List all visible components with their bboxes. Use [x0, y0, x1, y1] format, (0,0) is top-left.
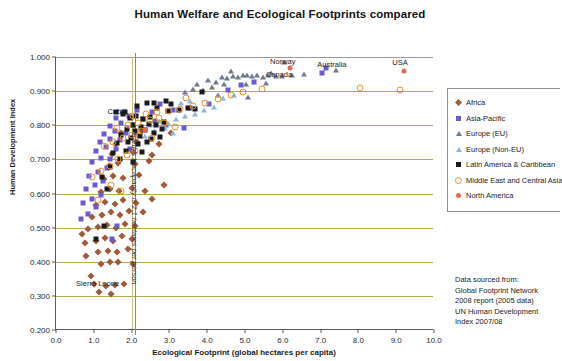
y-tick-mark	[52, 227, 56, 228]
data-point	[252, 79, 257, 84]
legend-item-label: Europe (Non-EU)	[466, 145, 524, 154]
y-gridline	[56, 296, 433, 297]
source-note: Data sourced from:Global Footprint Netwo…	[455, 275, 560, 328]
chart-title: Human Welfare and Ecological Footprints …	[0, 8, 560, 20]
y-tick-label: 0.700	[30, 155, 50, 164]
chart-annotation: USA	[392, 58, 407, 67]
data-point	[401, 69, 406, 74]
data-point	[81, 201, 86, 206]
data-point	[149, 195, 156, 202]
data-point	[116, 212, 123, 219]
source-note-line: 2008 report (2005 data)	[455, 296, 560, 307]
legend-marker-icon	[454, 177, 463, 184]
data-point	[227, 92, 234, 99]
y-tick-mark	[52, 193, 56, 194]
data-point	[183, 94, 190, 101]
data-point	[165, 107, 172, 114]
data-point	[202, 99, 209, 106]
y-tick-label: 0.500	[30, 223, 50, 232]
y-tick-mark	[52, 261, 56, 262]
data-point	[120, 135, 127, 142]
data-point	[97, 167, 104, 174]
y-axis-title: Human Development Index	[8, 99, 17, 195]
legend-item-middle-east-and-central-asia[interactable]: Middle East and Central Asia	[454, 173, 560, 189]
y-tick-label: 0.800	[30, 121, 50, 130]
x-tick-mark	[131, 329, 132, 333]
data-point	[114, 116, 119, 121]
y-tick-label: 0.400	[30, 257, 50, 266]
source-note-line: Data sourced from:	[455, 275, 560, 286]
data-point	[110, 173, 117, 180]
data-point	[160, 181, 167, 188]
data-point	[159, 127, 164, 132]
chart-annotation: Canada	[266, 70, 292, 79]
data-point	[221, 82, 227, 87]
legend-item-europe-eu[interactable]: Europe (EU)	[454, 126, 560, 142]
data-point	[93, 205, 98, 210]
data-point	[145, 158, 152, 165]
legend-item-latin-america-caribbean[interactable]: Latin America & Caribbean	[454, 157, 560, 173]
legend-item-asia-pacific[interactable]: Asia-Pacific	[454, 111, 560, 127]
source-note-line: Index 2007/08	[455, 317, 560, 328]
data-point	[99, 211, 106, 218]
data-point	[114, 124, 121, 131]
data-point	[102, 234, 109, 241]
data-point	[263, 80, 269, 85]
y-gridline	[56, 125, 433, 126]
x-tick-mark	[282, 329, 283, 333]
source-note-line: Global Footprint Network	[455, 286, 560, 297]
data-point	[120, 281, 127, 288]
y-tick-mark	[52, 57, 56, 58]
x-tick-mark	[358, 329, 359, 333]
data-point	[92, 183, 97, 188]
data-point	[101, 142, 108, 149]
data-point	[211, 104, 217, 109]
data-point	[119, 175, 126, 182]
data-point	[170, 130, 176, 135]
legend-item-label: Asia-Pacific	[466, 114, 505, 123]
y-tick-mark	[52, 159, 56, 160]
data-point	[109, 236, 114, 241]
data-point	[146, 117, 153, 124]
legend-item-africa[interactable]: Africa	[454, 95, 560, 111]
x-tick-label: 8.0	[353, 336, 364, 345]
data-point	[110, 138, 117, 145]
data-point	[173, 117, 179, 122]
data-point	[111, 150, 116, 155]
data-point	[86, 211, 91, 216]
legend-item-europe-non-eu[interactable]: Europe (Non-EU)	[454, 142, 560, 158]
data-point	[301, 72, 307, 77]
y-tick-label: 0.200	[30, 326, 50, 335]
y-tick-mark	[52, 295, 56, 296]
data-point	[140, 149, 145, 154]
data-point	[118, 187, 125, 194]
data-point	[94, 248, 101, 255]
legend-item-label: Africa	[466, 98, 485, 107]
data-point	[240, 89, 247, 96]
chart-annotation: Cuba	[108, 107, 126, 116]
data-point	[199, 89, 204, 94]
data-point	[172, 123, 179, 130]
x-tick-mark	[207, 329, 208, 333]
x-tick-label: 7.0	[315, 336, 326, 345]
x-tick-label: 10.0	[426, 336, 442, 345]
data-point	[396, 87, 403, 94]
data-point	[205, 78, 211, 83]
data-point	[84, 187, 89, 192]
x-tick-mark	[93, 329, 94, 333]
data-point	[245, 94, 251, 99]
legend-marker-icon	[454, 147, 463, 152]
y-tick-label: 0.600	[30, 189, 50, 198]
data-point	[130, 112, 137, 119]
legend-item-north-america[interactable]: North America	[454, 188, 560, 204]
x-tick-mark	[169, 329, 170, 333]
data-point	[144, 101, 149, 106]
data-point	[154, 123, 159, 128]
data-point	[139, 209, 146, 216]
data-point	[93, 148, 98, 153]
data-point	[135, 119, 142, 126]
x-tick-mark	[396, 329, 397, 333]
legend-marker-icon	[454, 100, 463, 105]
data-point	[176, 105, 183, 112]
data-point	[163, 98, 168, 103]
